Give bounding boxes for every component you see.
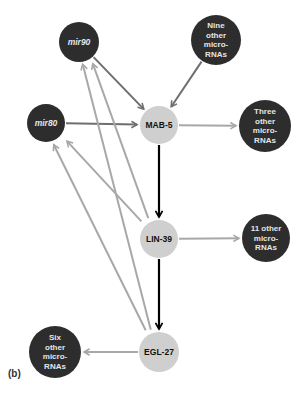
node-mir80: mir80 — [27, 104, 65, 142]
node-three: Threeothermicro-RNAs — [239, 100, 291, 152]
node-label: RNAs — [254, 136, 276, 145]
edge-mir90-to-mab5 — [94, 57, 144, 109]
node-label: RNAs — [205, 50, 227, 59]
edge-lin39-to-mir80 — [67, 141, 141, 221]
node-label: LIN-39 — [146, 234, 172, 244]
node-label: other — [206, 31, 226, 40]
node-lin39: LIN-39 — [140, 220, 178, 258]
edge-lin39-to-mir90 — [93, 64, 148, 219]
edge-nine-to-mab5 — [171, 62, 201, 107]
node-label: micro- — [254, 234, 279, 243]
edge-mab5-to-three — [179, 125, 236, 126]
node-nine: Nineothermicro-RNAs — [191, 15, 241, 65]
node-label: RNAs — [255, 243, 277, 252]
node-label: micro- — [253, 126, 278, 135]
edge-lin39-to-eleven — [179, 238, 239, 239]
node-label: mir90 — [68, 37, 91, 47]
node-label: micro- — [204, 40, 229, 49]
node-label: micro- — [43, 352, 68, 361]
gene-regulation-diagram: mir90Nineothermicro-RNAsmir80MAB-5Threeo… — [0, 0, 302, 393]
node-label: MAB-5 — [146, 120, 173, 130]
node-six: Sixothermicro-RNAs — [29, 326, 81, 378]
node-label: 11 other — [251, 224, 282, 233]
node-label: EGL-27 — [144, 347, 174, 357]
node-mab5: MAB-5 — [140, 106, 178, 144]
node-label: other — [255, 117, 275, 126]
node-label: RNAs — [44, 362, 66, 371]
node-label: Three — [254, 107, 276, 116]
edges — [54, 57, 239, 352]
panel-label: (b) — [8, 368, 21, 379]
node-label: Nine — [207, 21, 225, 30]
node-label: Six — [49, 333, 62, 342]
edge-mir80-to-mab5 — [66, 123, 137, 124]
node-label: mir80 — [35, 118, 58, 128]
node-label: other — [45, 343, 65, 352]
node-egl27: EGL-27 — [139, 332, 179, 372]
node-eleven: 11 othermicro-RNAs — [242, 214, 290, 262]
node-mir90: mir90 — [59, 22, 99, 62]
